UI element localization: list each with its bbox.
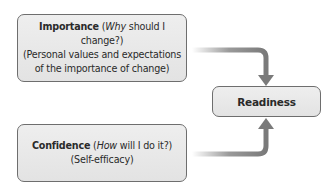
confidence-how: How [97,140,117,151]
importance-box: Importance (Why should I change?) (Perso… [17,14,187,82]
importance-why: Why [105,21,126,32]
arrow-importance-to-readiness [192,50,274,86]
confidence-question: will I do it?) [117,140,172,151]
confidence-box: Confidence (How will I do it?) (Self-eff… [17,124,187,182]
readiness-box: Readiness [212,86,321,117]
arrow-confidence-to-readiness [192,118,274,154]
readiness-title: Readiness [237,95,296,109]
confidence-title: Confidence [32,140,90,151]
confidence-heading: Confidence (How will I do it?) [32,139,172,153]
importance-heading: Importance (Why should I change?) [18,20,186,48]
importance-description-line1: (Personal values and expectations [23,48,181,62]
confidence-description: (Self-efficacy) [71,153,134,167]
importance-title: Importance [39,21,99,32]
importance-description-line2: of the importance of change) [35,62,170,76]
